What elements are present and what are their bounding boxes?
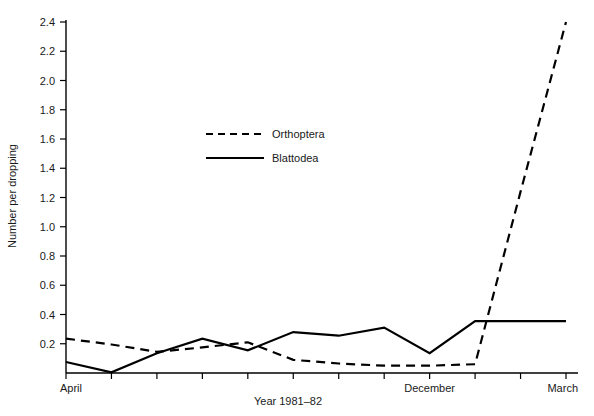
series-line-blattodea: [66, 321, 566, 372]
legend-label-blattodea: Blattodea: [272, 152, 319, 164]
y-tick-label: 2.2: [40, 45, 55, 57]
y-axis-ticks: 0.20.40.60.81.01.21.41.61.82.02.22.4: [40, 16, 66, 350]
y-tick-label: 1.6: [40, 133, 55, 145]
y-tick-label: 0.8: [40, 250, 55, 262]
y-tick-label: 1.8: [40, 104, 55, 116]
x-tick-label: April: [60, 382, 82, 394]
data-series-layer: [66, 22, 566, 372]
x-tick-label: December: [404, 382, 455, 394]
y-tick-label: 1.0: [40, 221, 55, 233]
y-tick-label: 2.0: [40, 75, 55, 87]
y-tick-label: 2.4: [40, 16, 55, 28]
legend-label-orthoptera: Orthoptera: [272, 128, 325, 140]
y-tick-label: 0.6: [40, 279, 55, 291]
y-tick-label: 0.4: [40, 309, 55, 321]
x-axis-title: Year 1981–82: [254, 395, 322, 407]
y-tick-label: 0.2: [40, 338, 55, 350]
y-axis-title: Number per dropping: [6, 144, 18, 248]
line-chart-canvas: Number per dropping 0.20.40.60.81.01.21.…: [0, 0, 594, 416]
y-tick-label: 1.2: [40, 192, 55, 204]
series-line-orthoptera: [66, 22, 566, 366]
y-axis-title-group: Number per dropping: [6, 144, 18, 248]
x-tick-label: March: [547, 382, 578, 394]
chart-figure: Number per dropping 0.20.40.60.81.01.21.…: [0, 0, 594, 416]
chart-legend: OrthopteraBlattodea: [206, 128, 325, 164]
x-axis-ticks: AprilDecemberMarch: [60, 373, 578, 394]
y-tick-label: 1.4: [40, 162, 55, 174]
